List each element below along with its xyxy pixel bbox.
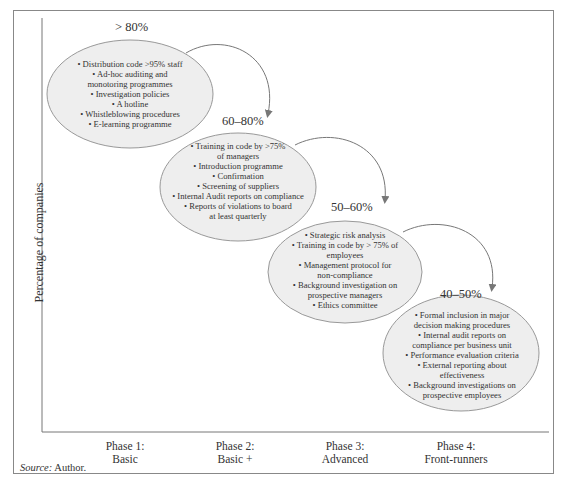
list-item: • Internal audit reports on: [386, 330, 538, 340]
list-item: • Performance evaluation criteria: [386, 350, 538, 360]
list-item: monotoring programmes: [50, 79, 210, 89]
phase-number: Phase 2:: [180, 440, 290, 453]
list-item: • External reporting about: [386, 360, 538, 370]
x-label-phase-1: Phase 1: Basic: [70, 440, 180, 466]
phase-name: Basic +: [180, 453, 290, 466]
list-item: • Introduction programme: [162, 161, 314, 171]
list-item: • Reports of violations to board: [162, 201, 314, 211]
phase-1-percentage: > 80%: [115, 20, 148, 35]
list-item: prospective managers: [270, 290, 420, 300]
list-item: • Background investigation on: [270, 280, 420, 290]
list-item: • Internal Audit reports on compliance: [162, 191, 314, 201]
list-item: • Background investigations on: [386, 380, 538, 390]
x-label-phase-4: Phase 4: Front-runners: [401, 440, 511, 466]
list-item: • Ethics committee: [270, 300, 420, 310]
list-item: • A hotline: [50, 99, 210, 109]
list-item: compliance per business unit: [386, 340, 538, 350]
list-item: • Whistleblowing procedures: [50, 109, 210, 119]
phase-3-items: • Strategic risk analysis • Training in …: [270, 230, 420, 310]
list-item: • Formal inclusion in major: [386, 310, 538, 320]
phase-number: Phase 4:: [401, 440, 511, 453]
x-label-phase-3: Phase 3: Advanced: [290, 440, 400, 466]
phase-1-items: • Distribution code >95% staff • Ad-hoc …: [50, 59, 210, 129]
phase-name: Front-runners: [401, 453, 511, 466]
phase-4-percentage: 40–50%: [440, 287, 482, 302]
list-item: • E-learning programme: [50, 119, 210, 129]
list-item: • Investigation policies: [50, 89, 210, 99]
list-item: effectiveness: [386, 370, 538, 380]
list-item: • Screening of suppliers: [162, 181, 314, 191]
list-item: • Strategic risk analysis: [270, 230, 420, 240]
list-item: • Ad-hoc auditing and: [50, 69, 210, 79]
list-item: decision making procedures: [386, 320, 538, 330]
phase-name: Advanced: [290, 453, 400, 466]
list-item: at least quarterly: [162, 211, 314, 221]
list-item: • Training in code by > 75% of: [270, 240, 420, 250]
list-item: • Distribution code >95% staff: [50, 59, 210, 69]
list-item: • Management protocol for: [270, 260, 420, 270]
list-item: prospective employees: [386, 390, 538, 400]
source-value: Author.: [52, 462, 86, 473]
phase-name: Basic: [70, 453, 180, 466]
phase-number: Phase 3:: [290, 440, 400, 453]
list-item: non-compliance: [270, 270, 420, 280]
phase-number: Phase 1:: [70, 440, 180, 453]
x-label-phase-2: Phase 2: Basic +: [180, 440, 290, 466]
phase-3-percentage: 50–60%: [331, 200, 373, 215]
list-item: • Training in code by >75%: [162, 141, 314, 151]
source-note: Source: Author.: [20, 462, 86, 473]
y-axis-label: Percentage of companies: [32, 158, 47, 328]
phase-4-items: • Formal inclusion in major decision mak…: [386, 310, 538, 400]
phase-2-percentage: 60–80%: [222, 114, 264, 129]
list-item: employees: [270, 250, 420, 260]
list-item: • Confirmation: [162, 171, 314, 181]
source-label: Source:: [20, 462, 52, 473]
phase-2-items: • Training in code by >75% of managers •…: [162, 141, 314, 221]
list-item: of managers: [162, 151, 314, 161]
